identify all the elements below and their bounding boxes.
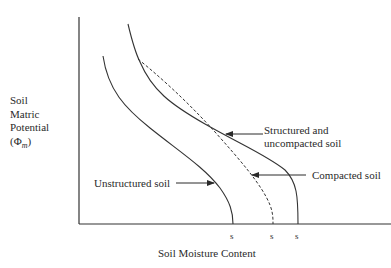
x-tick-unstructured-saturation: s: [230, 231, 234, 241]
x-tick-compacted-saturation: s: [270, 231, 274, 241]
unstructured-soil-label: Unstructured soil: [94, 177, 170, 190]
x-axis-label: Soil Moisture Content: [158, 247, 256, 260]
phi-symbol: (Φ: [10, 135, 22, 147]
compacted-soil-label: Compacted soil: [312, 169, 381, 182]
y-axis-label-line-4: (Φm): [10, 135, 49, 153]
structured-soil-label: Structured and uncompacted soil: [264, 124, 341, 150]
unstructured-soil-curve: [103, 56, 233, 224]
structured-soil-label-line-1: Structured and: [264, 124, 341, 137]
compacted-soil-curve: [138, 59, 273, 224]
structured-soil-label-line-2: uncompacted soil: [264, 137, 341, 150]
y-axis-label-line-2: Matric: [10, 108, 49, 122]
y-axis-label-line-1: Soil: [10, 94, 49, 108]
paren-close: ): [28, 135, 32, 147]
x-tick-structured-saturation: s: [295, 231, 299, 241]
y-axis-label-line-3: Potential: [10, 121, 49, 135]
y-axis-label: Soil Matric Potential (Φm): [10, 94, 49, 152]
